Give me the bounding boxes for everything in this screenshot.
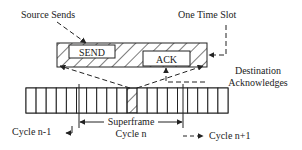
time-slot [137, 88, 147, 113]
time-slot [167, 88, 177, 113]
superframe-bar [26, 88, 228, 113]
time-slot [87, 88, 97, 113]
highlighted-time-slot [127, 88, 137, 113]
cycle-n-minus-1-label: Cycle n-1 [12, 126, 51, 137]
cycle-prev-arrow [66, 126, 72, 133]
zoom-lines [60, 66, 203, 88]
time-slot [46, 88, 56, 113]
ack-label: ACK [156, 54, 178, 65]
time-slot [147, 88, 157, 113]
time-slot [198, 88, 208, 113]
acknowledges-label: Acknowledges [228, 77, 288, 88]
time-slot [218, 88, 228, 113]
time-slot [157, 88, 167, 113]
time-slot [77, 88, 87, 113]
time-slot [188, 88, 198, 113]
time-slot [56, 88, 66, 113]
destination-ack-arrow [166, 68, 205, 82]
cycle-n-plus-1-label: Cycle n+1 [209, 130, 250, 141]
source-sends-label: Source Sends [21, 9, 75, 20]
time-slot [36, 88, 46, 113]
time-slot [107, 88, 117, 113]
superframe-label: Superframe [108, 116, 155, 127]
time-slot [97, 88, 107, 113]
destination-label: Destination [235, 65, 281, 76]
one-time-slot-label: One Time Slot [178, 9, 237, 20]
time-slot [66, 88, 76, 113]
time-slot [26, 88, 36, 113]
one-time-slot-arrow [209, 25, 226, 55]
time-slot [208, 88, 218, 113]
send-label: SEND [79, 47, 105, 58]
source-sends-arrow [57, 22, 86, 43]
time-slot-detail: SEND ACK [57, 43, 207, 67]
cycle-n-label: Cycle n [116, 128, 147, 139]
time-slot [117, 88, 127, 113]
tdma-superframe-diagram: SEND ACK Source Sends One Time Slot Dest… [0, 0, 302, 150]
